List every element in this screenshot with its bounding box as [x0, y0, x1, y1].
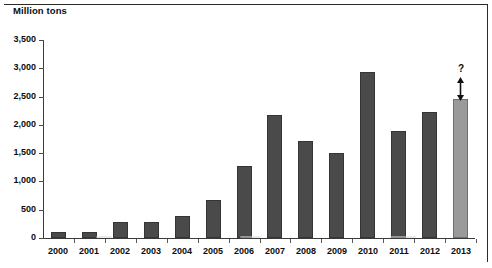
y-axis-tick-label: 0	[2, 233, 36, 242]
y-axis-tick-label: 2,500	[2, 92, 36, 101]
x-axis-tick	[476, 239, 477, 243]
x-axis-label-2008: 2008	[290, 246, 322, 256]
x-axis-tick	[260, 239, 261, 243]
x-axis-tick	[352, 239, 353, 243]
x-axis-label-2006: 2006	[228, 246, 260, 256]
bar-2000	[51, 232, 66, 238]
bar-2008	[298, 141, 313, 238]
x-axis-tick	[229, 239, 230, 243]
x-axis-tick	[290, 239, 291, 243]
y-axis-tick-label-wrap: 0	[0, 233, 36, 243]
x-axis-label-2013: 2013	[445, 246, 477, 256]
y-axis-tick-label: 1,000	[2, 176, 36, 185]
bar-2011	[391, 131, 406, 238]
y-axis-tick-label-wrap: 3,000	[0, 63, 36, 73]
bar-2003	[144, 222, 159, 238]
bar-2012	[422, 112, 437, 238]
scan-artifact	[96, 236, 112, 238]
scan-artifact	[390, 236, 416, 238]
y-axis-tick-label: 500	[2, 205, 36, 214]
y-axis-tick	[39, 153, 44, 154]
y-axis-tick	[39, 97, 44, 98]
bar-2013	[453, 99, 468, 238]
scan-artifact	[240, 236, 260, 238]
uncertainty-arrow-icon	[455, 77, 466, 101]
x-axis-label-2011: 2011	[383, 246, 415, 256]
y-axis-tick	[39, 68, 44, 69]
y-axis-tick	[39, 210, 44, 211]
bar-2005	[206, 200, 221, 238]
y-axis-title: Million tons	[13, 5, 67, 16]
y-axis-tick	[39, 125, 44, 126]
y-axis-tick	[39, 238, 44, 239]
bar-2009	[329, 153, 344, 238]
x-axis-tick	[74, 239, 75, 243]
x-axis-tick	[445, 239, 446, 243]
y-axis-tick-label: 3,000	[2, 63, 36, 72]
y-axis-tick-label-wrap: 500	[0, 205, 36, 215]
x-axis-tick	[383, 239, 384, 243]
bar-2004	[175, 216, 190, 238]
x-axis-label-2001: 2001	[73, 246, 105, 256]
x-axis-tick	[321, 239, 322, 243]
x-axis-tick	[105, 239, 106, 243]
x-axis-tick	[136, 239, 137, 243]
x-axis-tick	[198, 239, 199, 243]
y-axis-tick-label-wrap: 1,500	[0, 148, 36, 158]
bar-2007	[267, 115, 282, 238]
y-axis-tick-label: 3,500	[2, 35, 36, 44]
y-axis-tick-label-wrap: 2,000	[0, 120, 36, 130]
x-axis-label-2002: 2002	[104, 246, 136, 256]
x-axis-label-2005: 2005	[197, 246, 229, 256]
bar-2002	[113, 222, 128, 238]
y-axis-tick-label: 1,500	[2, 148, 36, 157]
x-axis-label-2007: 2007	[259, 246, 291, 256]
bar-chart: Million tons 05001,0001,5002,0002,5003,0…	[0, 0, 492, 268]
uncertainty-question-mark: ?	[454, 64, 468, 74]
y-axis-tick-label-wrap: 2,500	[0, 92, 36, 102]
x-axis-label-2004: 2004	[166, 246, 198, 256]
y-axis-tick-label-wrap: 1,000	[0, 176, 36, 186]
x-axis-line	[43, 238, 475, 239]
x-axis-label-2000: 2000	[42, 246, 74, 256]
x-axis-label-2010: 2010	[352, 246, 384, 256]
bar-2001	[82, 232, 97, 238]
x-axis-tick	[414, 239, 415, 243]
bar-2006	[237, 166, 252, 238]
y-axis-tick	[39, 181, 44, 182]
bar-2010	[360, 72, 375, 238]
x-axis-tick	[167, 239, 168, 243]
y-axis-tick	[39, 40, 44, 41]
x-axis-label-2012: 2012	[414, 246, 446, 256]
x-axis-label-2009: 2009	[321, 246, 353, 256]
x-axis-label-2003: 2003	[135, 246, 167, 256]
y-axis-tick-label: 2,000	[2, 120, 36, 129]
y-axis-tick-label-wrap: 3,500	[0, 35, 36, 45]
